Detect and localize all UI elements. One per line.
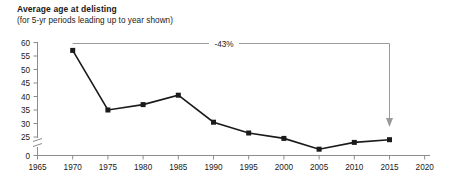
y-axis-ticks — [34, 43, 38, 156]
x-tick-label-2020: 2020 — [416, 163, 435, 172]
annotation-arrowhead-icon — [386, 118, 393, 127]
chart-page: Average age at delisting (for 5-yr perio… — [0, 0, 451, 186]
data-point-1980 — [141, 102, 146, 107]
y-tick-label-40: 40 — [21, 93, 31, 102]
x-tick-label-1985: 1985 — [169, 163, 188, 172]
annotation-change-label: -43% — [214, 40, 233, 49]
x-tick-label-2015: 2015 — [380, 163, 399, 172]
x-tick-label-1980: 1980 — [134, 163, 153, 172]
y-tick-label-45: 45 — [21, 79, 31, 88]
x-tick-label-2005: 2005 — [310, 163, 329, 172]
x-tick-label-1990: 1990 — [204, 163, 223, 172]
x-axis-ticks — [38, 156, 425, 160]
y-axis-break-mark-upper — [33, 139, 42, 142]
data-point-2005 — [317, 147, 322, 152]
y-tick-label-60: 60 — [21, 39, 31, 48]
data-point-1985 — [176, 93, 181, 98]
y-tick-label-35: 35 — [21, 106, 31, 115]
y-tick-label-30: 30 — [21, 120, 31, 129]
line-chart: 60 55 50 45 40 35 30 25 0 1965 1970 1975… — [0, 0, 451, 186]
x-tick-label-1995: 1995 — [240, 163, 259, 172]
x-tick-label-1970: 1970 — [64, 163, 83, 172]
data-point-1990 — [211, 120, 216, 125]
data-line-series — [73, 50, 390, 149]
x-tick-label-1965: 1965 — [28, 163, 47, 172]
y-tick-label-25: 25 — [21, 133, 31, 142]
y-tick-label-0: 0 — [25, 152, 30, 161]
y-tick-label-55: 55 — [21, 52, 31, 61]
x-tick-label-2010: 2010 — [345, 163, 364, 172]
x-tick-label-1975: 1975 — [99, 163, 118, 172]
x-tick-label-2000: 2000 — [275, 163, 294, 172]
data-point-1995 — [246, 131, 251, 136]
data-point-2015 — [387, 137, 392, 142]
y-tick-label-50: 50 — [21, 66, 31, 75]
y-axis-break-mark-lower — [33, 144, 42, 147]
change-annotation: -43% — [73, 37, 393, 127]
data-point-2010 — [352, 140, 357, 145]
data-point-2000 — [281, 136, 286, 141]
data-point-1975 — [105, 108, 110, 113]
data-markers — [70, 48, 392, 152]
data-point-1970 — [70, 48, 75, 53]
